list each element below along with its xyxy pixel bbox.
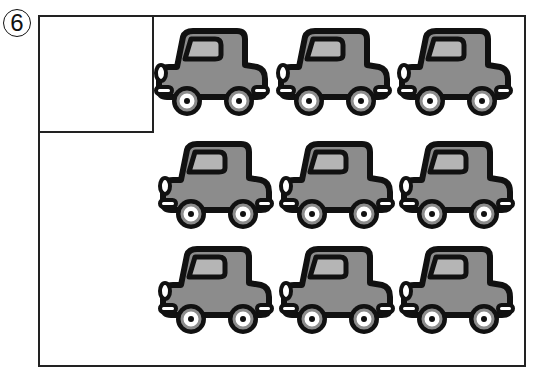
problem-number: 6 [3, 9, 31, 37]
car-icon [275, 25, 393, 121]
car-icon [278, 138, 396, 234]
answer-box[interactable] [38, 15, 154, 133]
car-icon [153, 25, 271, 121]
car-icon [396, 25, 514, 121]
car-icon [398, 138, 516, 234]
car-icon [157, 138, 275, 234]
problem-number-label: 6 [10, 9, 23, 37]
car-icon [278, 243, 396, 339]
car-icon [398, 243, 516, 339]
car-icon [157, 243, 275, 339]
